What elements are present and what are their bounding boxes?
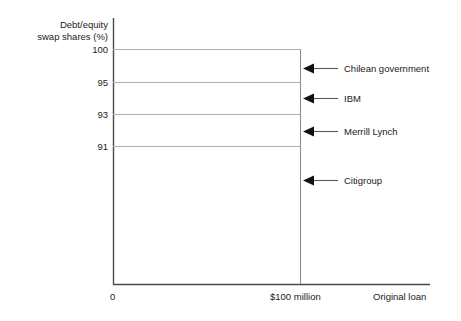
x-axis-caption: Original loan <box>373 291 426 302</box>
arrow-left-icon <box>303 94 314 104</box>
x-tick-label-hundred-million: $100 million <box>270 291 321 302</box>
callout-label: Chilean government <box>344 63 429 74</box>
chart-figure: Debt/equity swap shares (%) 100 95 93 91… <box>0 0 461 321</box>
y-axis-title-line1: Debt/equity <box>60 19 108 30</box>
y-tick-label-100: 100 <box>92 44 108 55</box>
x-tick-label-zero: 0 <box>110 291 115 302</box>
y-tick-label-91: 91 <box>97 141 108 152</box>
y-tick-label-95: 95 <box>97 77 108 88</box>
callout-merrill-lynch: Merrill Lynch <box>303 126 398 137</box>
arrow-left-icon <box>303 64 314 74</box>
callout-label: Merrill Lynch <box>344 126 398 137</box>
y-tick-label-93: 93 <box>97 109 108 120</box>
callout-ibm: IBM <box>303 93 361 104</box>
callout-label: Citigroup <box>344 175 382 186</box>
debt-equity-swap-chart: Debt/equity swap shares (%) 100 95 93 91… <box>0 0 461 321</box>
callout-chilean-government: Chilean government <box>303 63 429 74</box>
arrow-left-icon <box>303 176 314 186</box>
arrow-left-icon <box>303 127 314 137</box>
y-axis-title-line2: swap shares (%) <box>37 31 108 42</box>
callout-citigroup: Citigroup <box>303 175 382 186</box>
callout-label: IBM <box>344 93 361 104</box>
